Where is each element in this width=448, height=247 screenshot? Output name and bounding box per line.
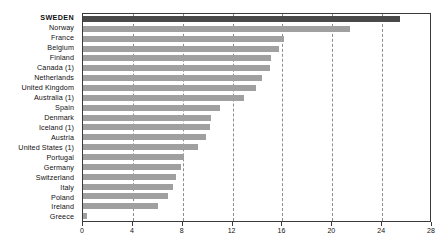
x-tick-mark <box>82 222 83 226</box>
category-label: SWEDEN <box>0 13 78 23</box>
bar <box>83 193 168 199</box>
bar-row <box>83 103 430 113</box>
bar-row <box>83 201 430 211</box>
x-tick-mark <box>232 222 233 226</box>
bars-container <box>83 14 430 221</box>
bar-row <box>83 44 430 54</box>
category-label: Spain <box>0 103 78 113</box>
x-tick-label: 28 <box>427 227 435 234</box>
bar <box>83 154 184 160</box>
x-axis: 0481216202428 <box>82 222 431 246</box>
category-label: Ireland <box>0 202 78 212</box>
bar <box>83 115 211 121</box>
bar <box>83 203 158 209</box>
bar-row <box>83 142 430 152</box>
bar-row <box>83 73 430 83</box>
x-tick-mark <box>132 222 133 226</box>
category-label: Australia (1) <box>0 93 78 103</box>
bar-row <box>83 14 430 24</box>
bar <box>83 213 87 219</box>
bar-row <box>83 122 430 132</box>
category-label: France <box>0 33 78 43</box>
category-label: Greece <box>0 212 78 222</box>
bar <box>83 16 400 22</box>
category-label: Canada (1) <box>0 63 78 73</box>
bar <box>83 105 220 111</box>
bar-row <box>83 172 430 182</box>
bar <box>83 55 271 61</box>
x-tick-label: 20 <box>327 227 335 234</box>
bar <box>83 36 284 42</box>
bar-row <box>83 113 430 123</box>
bar-row <box>83 191 430 201</box>
bar <box>83 164 181 170</box>
bar <box>83 75 262 81</box>
bar-chart: SWEDENNorwayFranceBelgiumFinlandCanada (… <box>0 0 448 247</box>
bar <box>83 46 279 52</box>
x-tick-label: 16 <box>278 227 286 234</box>
category-label: Norway <box>0 23 78 33</box>
category-label: Poland <box>0 192 78 202</box>
bar <box>83 26 350 32</box>
x-tick-label: 12 <box>228 227 236 234</box>
bar-row <box>83 63 430 73</box>
category-label: Belgium <box>0 43 78 53</box>
bar-row <box>83 34 430 44</box>
bar-row <box>83 24 430 34</box>
x-tick-mark <box>182 222 183 226</box>
bar <box>83 85 256 91</box>
category-label: United States (1) <box>0 142 78 152</box>
x-tick-mark <box>381 222 382 226</box>
bar-row <box>83 162 430 172</box>
x-tick-mark <box>281 222 282 226</box>
category-label: Finland <box>0 53 78 63</box>
x-tick-label: 4 <box>130 227 134 234</box>
bar <box>83 124 210 130</box>
bar-row <box>83 53 430 63</box>
category-label: Switzerland <box>0 172 78 182</box>
category-label: Iceland (1) <box>0 122 78 132</box>
bar-row <box>83 152 430 162</box>
bar <box>83 144 198 150</box>
category-label: Netherlands <box>0 73 78 83</box>
bar-row <box>83 211 430 221</box>
bar <box>83 134 206 140</box>
category-label: Italy <box>0 182 78 192</box>
category-axis-labels: SWEDENNorwayFranceBelgiumFinlandCanada (… <box>0 13 78 222</box>
bar <box>83 95 244 101</box>
category-label: United Kingdom <box>0 83 78 93</box>
bar-row <box>83 182 430 192</box>
bar-row <box>83 93 430 103</box>
x-tick-label: 24 <box>377 227 385 234</box>
category-label: Germany <box>0 162 78 172</box>
x-tick-label: 8 <box>180 227 184 234</box>
bar-row <box>83 83 430 93</box>
plot-area <box>82 13 431 222</box>
category-label: Austria <box>0 132 78 142</box>
bar-row <box>83 132 430 142</box>
category-label: Denmark <box>0 113 78 123</box>
category-label: Portugal <box>0 152 78 162</box>
x-tick-mark <box>431 222 432 226</box>
bar <box>83 184 173 190</box>
bar <box>83 65 270 71</box>
x-tick-label: 0 <box>80 227 84 234</box>
x-tick-mark <box>331 222 332 226</box>
bar <box>83 174 176 180</box>
